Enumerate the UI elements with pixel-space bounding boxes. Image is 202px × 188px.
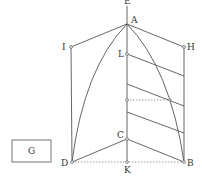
point-ordinate: [126, 99, 129, 102]
parabola-diagram: E A I H L C D K B G: [0, 0, 202, 188]
point-B: [183, 161, 186, 164]
label-E: E: [124, 0, 131, 6]
parallel-line-2: [127, 84, 184, 106]
label-A: A: [130, 15, 138, 25]
parallel-line-3: [127, 112, 184, 133]
line-AH: [127, 24, 184, 47]
label-D: D: [61, 158, 68, 168]
point-H: [183, 46, 186, 49]
point-I: [70, 46, 73, 49]
point-K: [126, 161, 129, 164]
point-D: [71, 161, 74, 164]
label-K: K: [124, 165, 131, 175]
line-CD: [72, 139, 127, 162]
line-AI: [71, 24, 127, 47]
parabola-right-arc: [127, 24, 184, 162]
label-L: L: [118, 49, 124, 59]
parabola-left-arc: [72, 24, 127, 162]
line-CB: [127, 139, 184, 162]
point-L: [126, 53, 129, 56]
label-B: B: [187, 158, 194, 168]
point-ordinate-end: [169, 99, 171, 101]
label-G: G: [28, 146, 35, 156]
label-H: H: [187, 42, 195, 52]
line-ID: [71, 47, 72, 162]
point-C: [126, 138, 129, 141]
label-I: I: [62, 42, 66, 52]
label-C: C: [117, 130, 124, 140]
